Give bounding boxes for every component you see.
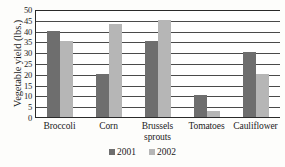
x-axis-category-labels: BroccoliCornBrussels sproutsTomatoesCaul… xyxy=(35,121,280,145)
x-axis-label: Broccoli xyxy=(36,121,83,145)
y-tick-label: 35 xyxy=(16,38,32,47)
x-axis-label: Tomatoes xyxy=(183,121,230,145)
plot-area xyxy=(35,10,280,118)
bar-group xyxy=(38,10,82,117)
bar-2001 xyxy=(243,52,256,117)
y-tick-label: 25 xyxy=(16,60,32,69)
y-tick-label: 40 xyxy=(16,27,32,36)
bar-2002 xyxy=(60,41,73,117)
bar-group xyxy=(136,10,180,117)
bar-2001 xyxy=(145,41,158,117)
y-tick-label: 50 xyxy=(16,6,32,15)
x-axis-label: Cauliflower xyxy=(232,121,279,145)
bar-2002 xyxy=(207,111,220,117)
x-axis-label: Corn xyxy=(85,121,132,145)
y-tick-label: 5 xyxy=(16,103,32,112)
legend: 20012002 xyxy=(0,147,285,157)
legend-label: 2002 xyxy=(157,147,176,157)
bar-2001 xyxy=(47,31,60,117)
y-tick-label: 45 xyxy=(16,17,32,26)
legend-swatch-icon xyxy=(149,149,155,155)
legend-label: 2001 xyxy=(117,147,136,157)
bar-group xyxy=(185,10,229,117)
bar-2001 xyxy=(194,95,207,117)
y-tick-label: 0 xyxy=(16,114,32,123)
bar-group xyxy=(234,10,278,117)
bar-2002 xyxy=(109,24,122,117)
bar-2001 xyxy=(96,74,109,117)
y-tick-label: 20 xyxy=(16,71,32,80)
bar-2002 xyxy=(256,74,269,117)
bar-groups xyxy=(36,10,280,117)
legend-item-2002: 2002 xyxy=(149,147,176,157)
legend-swatch-icon xyxy=(109,149,115,155)
bar-chart: Vegetable yield (lbs.) 50454035302520151… xyxy=(0,0,285,167)
x-axis-label: Brussels sprouts xyxy=(134,121,181,145)
bar-2002 xyxy=(158,20,171,117)
y-tick-label: 30 xyxy=(16,49,32,58)
legend-item-2001: 2001 xyxy=(109,147,136,157)
bar-group xyxy=(87,10,131,117)
y-tick-label: 10 xyxy=(16,92,32,101)
y-axis-tick-labels: 50454035302520151050 xyxy=(16,10,32,118)
y-tick-label: 15 xyxy=(16,81,32,90)
